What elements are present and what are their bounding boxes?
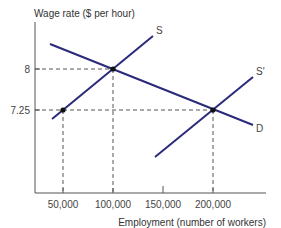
x-tick-label-200000: 200,000	[195, 199, 232, 210]
min-wage-point	[60, 107, 65, 112]
supply-curve-s	[52, 36, 153, 119]
curve-label-s: S	[156, 25, 163, 36]
x-tick-label-50000: 50,000	[48, 199, 79, 210]
y-axis-label: Wage rate ($ per hour)	[34, 8, 135, 19]
curve-label-s-prime: S′	[256, 66, 265, 77]
x-axis-label: Employment (number of workers)	[118, 217, 266, 228]
equilibrium-point-2	[210, 107, 215, 112]
equilibrium-point-1	[110, 66, 115, 71]
x-tick-label-150000: 150,000	[145, 199, 182, 210]
demand-curve	[50, 44, 253, 125]
chart: Wage rate ($ per hour) 8 7.25 50,000 100…	[0, 0, 281, 228]
curve-label-d: D	[256, 123, 263, 134]
y-tick-label-725: 7.25	[11, 105, 31, 116]
supply-curve-s-prime	[155, 77, 253, 157]
y-tick-label-8: 8	[24, 64, 30, 75]
x-tick-label-100000: 100,000	[95, 199, 132, 210]
